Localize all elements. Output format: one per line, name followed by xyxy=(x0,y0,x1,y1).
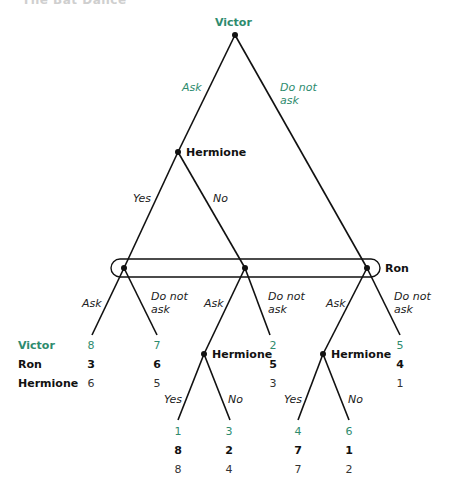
label-hermione-node-2: Hermione xyxy=(331,348,391,361)
payoff-leaf1-hermione: 6 xyxy=(83,377,99,390)
move-h1-no: No xyxy=(228,393,243,406)
payoff-leaf4-ron: 4 xyxy=(392,358,408,371)
payoff-leaf8-hermione: 2 xyxy=(341,463,357,476)
payoff-leaf1-ron: 3 xyxy=(83,358,99,371)
move-ron1-ask: Ask xyxy=(82,297,102,310)
move-h1-yes: Yes xyxy=(164,393,182,406)
payoff-leaf2-victor: 7 xyxy=(149,339,165,352)
move-ron3-not-2: ask xyxy=(394,303,413,316)
node-hermione-2 xyxy=(320,351,326,357)
move-ron3-ask: Ask xyxy=(326,297,346,310)
payoff-leaf5-victor: 1 xyxy=(170,425,186,438)
move-victor-ask: Ask xyxy=(182,81,202,94)
payoff-leaf3-victor: 2 xyxy=(265,339,281,352)
payoff-leaf4-victor: 5 xyxy=(392,339,408,352)
payoff-leaf6-victor: 3 xyxy=(221,425,237,438)
payoff-leaf8-victor: 6 xyxy=(341,425,357,438)
payoff-leaf6-hermione: 4 xyxy=(221,463,237,476)
payoff-label-hermione: Hermione xyxy=(18,377,78,390)
move-hermione-yes: Yes xyxy=(133,192,151,205)
label-hermione-top-node: Hermione xyxy=(186,146,246,159)
move-ron2-ask: Ask xyxy=(204,297,224,310)
node-hermione-1 xyxy=(201,351,207,357)
payoff-leaf2-hermione: 5 xyxy=(149,377,165,390)
payoff-leaf4-hermione: 1 xyxy=(392,377,408,390)
move-ron2-not-2: ask xyxy=(268,303,287,316)
payoff-leaf3-ron: 5 xyxy=(265,358,281,371)
move-hermione-no: No xyxy=(213,192,228,205)
label-ron-infoset: Ron xyxy=(385,262,409,275)
payoff-label-ron: Ron xyxy=(18,358,42,371)
move-victor-do-not-ask-1: Do not xyxy=(280,81,317,94)
move-h2-no: No xyxy=(348,393,363,406)
payoff-label-victor: Victor xyxy=(18,339,55,352)
game-tree-edges xyxy=(0,0,449,496)
payoff-leaf2-ron: 6 xyxy=(149,358,165,371)
payoff-leaf5-ron: 8 xyxy=(170,444,186,457)
payoff-leaf3-hermione: 3 xyxy=(265,377,281,390)
payoff-leaf8-ron: 1 xyxy=(341,444,357,457)
node-ron-1 xyxy=(121,265,127,271)
payoff-leaf6-ron: 2 xyxy=(221,444,237,457)
node-ron-3 xyxy=(364,265,370,271)
move-ron2-not-1: Do not xyxy=(268,290,305,303)
payoff-leaf7-victor: 4 xyxy=(290,425,306,438)
node-hermione-top xyxy=(175,149,181,155)
node-victor xyxy=(232,32,238,38)
move-ron3-not-1: Do not xyxy=(394,290,431,303)
payoff-leaf1-victor: 8 xyxy=(83,339,99,352)
payoff-leaf7-hermione: 7 xyxy=(290,463,306,476)
move-h2-yes: Yes xyxy=(284,393,302,406)
node-ron-2 xyxy=(242,265,248,271)
payoff-leaf7-ron: 7 xyxy=(290,444,306,457)
label-victor-node: Victor xyxy=(215,16,252,29)
move-ron1-not-1: Do not xyxy=(151,290,188,303)
label-hermione-node-1: Hermione xyxy=(212,348,272,361)
move-ron1-not-2: ask xyxy=(151,303,170,316)
move-victor-do-not-ask-2: ask xyxy=(280,94,299,107)
payoff-leaf5-hermione: 8 xyxy=(170,463,186,476)
